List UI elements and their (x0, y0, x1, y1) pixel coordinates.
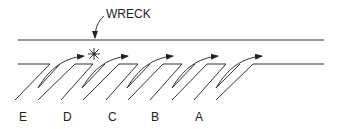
label-b: B (151, 110, 159, 124)
ramp-entry (216, 56, 262, 100)
arrow-b (127, 56, 173, 88)
label-a: A (195, 110, 203, 124)
ramp-b (127, 56, 182, 100)
wreck-label: WRECK (106, 7, 151, 21)
arrow-entry (216, 56, 262, 88)
label-d: D (63, 110, 72, 124)
ramp-d (38, 56, 93, 100)
label-e: E (19, 110, 27, 124)
ramp-a (172, 56, 226, 100)
label-c: C (108, 110, 117, 124)
arrow-d (38, 56, 84, 88)
wreck-diagram: WRECK E D C B A (0, 0, 340, 129)
wreck-star-icon (88, 48, 100, 60)
ramp-c (82, 56, 138, 100)
wreck-leader-arrow (95, 16, 104, 38)
arrow-a (172, 56, 218, 88)
